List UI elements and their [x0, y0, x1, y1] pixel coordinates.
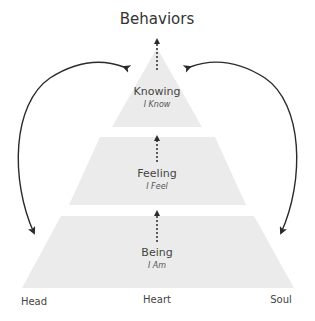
- axis-label-soul: Soul: [270, 294, 292, 305]
- title-behaviors: Behaviors: [120, 10, 194, 28]
- tier-being-label: Being: [141, 246, 172, 259]
- tier-being-sub: I Am: [148, 261, 166, 270]
- tier-feeling-label: Feeling: [137, 167, 176, 180]
- tier-feeling-sub: I Feel: [146, 182, 168, 191]
- tier-knowing-sub: I Know: [144, 100, 171, 109]
- axis-label-heart: Heart: [143, 294, 171, 305]
- pyramid-diagram: [0, 0, 315, 321]
- tier-knowing-label: Knowing: [134, 85, 181, 98]
- axis-label-head: Head: [21, 296, 47, 307]
